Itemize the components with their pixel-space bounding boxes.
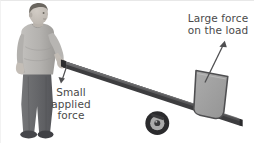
load-block	[194, 71, 228, 119]
wheel-hub	[154, 120, 160, 126]
wheel-axle-highlight	[155, 121, 157, 123]
eye	[43, 12, 45, 14]
lever-handle-cap	[61, 60, 66, 68]
load-body	[194, 71, 228, 119]
lever-end-cap	[240, 119, 243, 127]
shoe-right	[38, 131, 54, 139]
tshirt	[19, 24, 56, 75]
shoe-left	[20, 131, 37, 139]
hand-left	[16, 63, 24, 75]
lever-diagram-figure: Large force on the load Small applied fo…	[0, 0, 254, 143]
small-force-arrow-head	[58, 77, 64, 83]
large-force-label: Large force on the load	[182, 13, 254, 36]
large-force-arrow-head	[219, 41, 226, 47]
small-applied-force-label: Small applied force	[39, 87, 103, 122]
ear	[29, 12, 33, 17]
fulcrum-wheel	[145, 111, 169, 135]
